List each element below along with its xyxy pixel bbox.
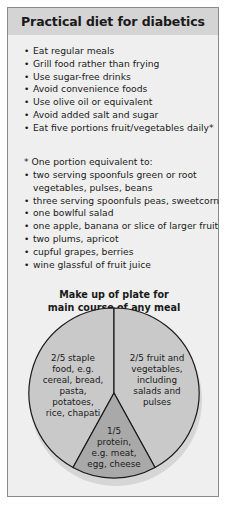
label-line: 2/5 fruit and xyxy=(119,353,195,364)
label-line: egg, cheese xyxy=(80,459,148,470)
label-protein: 1/5 protein, e.g. meat, egg, cheese xyxy=(80,426,148,470)
label-line: e.g. meat, xyxy=(80,448,148,459)
diet-info-box: Practical diet for diabetics Eat regular… xyxy=(7,7,219,497)
plate-pie-chart xyxy=(8,8,220,498)
label-fruit-veg: 2/5 fruit and vegetables, including sala… xyxy=(119,353,195,408)
label-line: rice, chapati xyxy=(38,408,108,419)
label-line: salads and xyxy=(119,386,195,397)
label-line: including xyxy=(119,375,195,386)
label-line: 1/5 xyxy=(80,426,148,437)
label-line: cereal, bread, xyxy=(38,375,108,386)
label-line: 2/5 staple xyxy=(38,353,108,364)
label-staple: 2/5 staple food, e.g. cereal, bread, pas… xyxy=(38,353,108,419)
label-line: protein, xyxy=(80,437,148,448)
label-line: food, e.g. xyxy=(38,364,108,375)
label-line: pulses xyxy=(119,397,195,408)
label-line: vegetables, xyxy=(119,364,195,375)
label-line: pasta, potatoes, xyxy=(38,386,108,408)
